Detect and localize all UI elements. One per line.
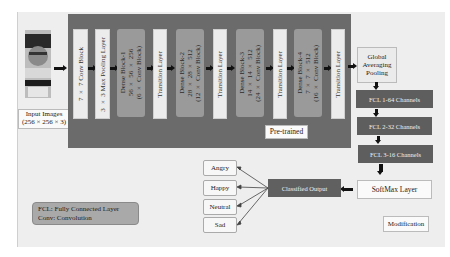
modification-label: Modification bbox=[383, 216, 429, 232]
legend-box: FCL: Fully Connected Layer Conv: Convolu… bbox=[32, 202, 139, 225]
